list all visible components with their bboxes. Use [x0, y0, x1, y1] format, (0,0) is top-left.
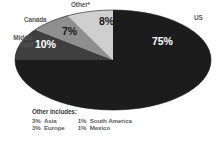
slice-value-middle-east: 10%: [35, 39, 56, 50]
footnote-pct-europe: 3%: [32, 124, 44, 131]
footnote-name-europe: Europe: [44, 124, 65, 131]
slice-value-other: 8%: [99, 16, 114, 27]
pie-chart: Other* Canada Middle East US 75% 8% 7% 1…: [0, 0, 221, 142]
slice-label-middle-east: Middle East: [3, 35, 33, 49]
footnote-item-south-america: 1%South America: [78, 117, 132, 124]
footnote-list: 3%Asia 1%South America 3%Europe 1%Mexico: [32, 117, 132, 132]
footnote-item-europe: 3%Europe: [32, 124, 65, 131]
footnote-pct-mexico: 1%: [78, 124, 90, 131]
footnote-name-south-america: South America: [90, 117, 132, 124]
footnote-item-mexico: 1%Mexico: [78, 124, 132, 131]
footnote-item-asia: 3%Asia: [32, 117, 65, 124]
footnote-pct-asia: 3%: [32, 117, 44, 124]
slice-label-us: US: [194, 15, 203, 22]
slice-label-canada: Canada: [24, 17, 47, 24]
slice-label-other: Other*: [71, 2, 90, 9]
footnote-block: Other includes: 3%Asia 1%South America 3…: [32, 108, 132, 131]
footnote-name-mexico: Mexico: [90, 124, 110, 131]
footnote-name-asia: Asia: [44, 117, 57, 124]
footnote-title: Other includes:: [32, 108, 132, 115]
slice-value-us: 75%: [152, 36, 173, 47]
slice-value-canada: 7%: [62, 26, 77, 37]
footnote-pct-south-america: 1%: [78, 117, 90, 124]
